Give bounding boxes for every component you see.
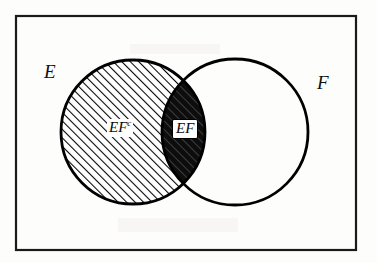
region-label-e-not-f: EFc bbox=[107, 119, 133, 137]
set-label-f: F bbox=[317, 73, 329, 92]
venn-diagram-figure: E F EFc EF bbox=[0, 0, 377, 263]
set-label-e: E bbox=[44, 62, 56, 81]
region-label-complement-superscript: c bbox=[127, 118, 131, 128]
region-label-intersection: EF bbox=[172, 119, 198, 139]
region-label-e-not-f-text: EF bbox=[109, 119, 127, 135]
